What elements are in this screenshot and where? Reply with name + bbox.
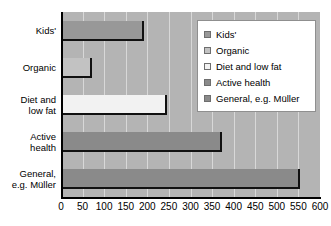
x-axis-tick-label: 550	[287, 201, 309, 213]
legend-label: General, e.g. Müller	[216, 93, 299, 104]
x-axis-tick-label: 50	[72, 201, 94, 213]
x-axis-tick-label: 350	[201, 201, 223, 213]
legend-swatch-icon	[204, 31, 211, 38]
y-axis-line	[61, 12, 63, 198]
legend-swatch-icon	[204, 47, 211, 54]
bar	[61, 21, 144, 41]
x-axis-tick-label: 300	[180, 201, 202, 213]
legend-label: Organic	[216, 45, 249, 56]
y-axis-label-line: Active	[0, 131, 56, 142]
legend-swatch-icon	[204, 63, 211, 70]
legend-item[interactable]: Diet and low fat	[204, 58, 309, 74]
x-axis-tick-label: 250	[158, 201, 180, 213]
legend-item[interactable]: General, e.g. Müller	[204, 90, 309, 106]
x-axis-tick-label: 150	[115, 201, 137, 213]
x-axis-line	[61, 197, 321, 199]
x-axis-tick-label: 0	[50, 201, 72, 213]
legend: Kids'OrganicDiet and low fatActive healt…	[197, 20, 316, 112]
x-axis-tick-label: 450	[244, 201, 266, 213]
x-axis-tick-label: 600	[309, 201, 331, 213]
legend-label: Active health	[216, 77, 270, 88]
legend-item[interactable]: Active health	[204, 74, 309, 90]
x-axis-tick-label: 400	[223, 201, 245, 213]
bar	[61, 58, 92, 78]
x-axis-tick-label: 100	[93, 201, 115, 213]
y-axis-label-line: e.g. Müller	[0, 179, 56, 190]
y-axis-label-line: low fat	[0, 105, 56, 116]
y-axis-label-line: health	[0, 142, 56, 153]
legend-swatch-icon	[204, 95, 211, 102]
y-axis-label-line: Organic	[0, 62, 56, 73]
bar	[61, 169, 300, 189]
y-axis-label-line: General,	[0, 168, 56, 179]
bar	[61, 132, 222, 152]
bar-chart: Kids'OrganicDiet andlow fatActivehealthG…	[0, 0, 331, 226]
y-axis-label: Organic	[0, 62, 56, 73]
legend-item[interactable]: Organic	[204, 42, 309, 58]
legend-swatch-icon	[204, 79, 211, 86]
bar	[61, 95, 167, 115]
x-axis-tick-label: 200	[136, 201, 158, 213]
y-axis-label: Diet andlow fat	[0, 94, 56, 116]
x-axis-tick-label: 500	[266, 201, 288, 213]
legend-label: Kids'	[216, 29, 236, 40]
y-axis-label: Activehealth	[0, 131, 56, 153]
y-axis-label-line: Kids'	[0, 25, 56, 36]
y-axis-label-line: Diet and	[0, 94, 56, 105]
y-axis-label: Kids'	[0, 25, 56, 36]
legend-item[interactable]: Kids'	[204, 26, 309, 42]
y-axis-label: General,e.g. Müller	[0, 168, 56, 190]
legend-label: Diet and low fat	[216, 61, 281, 72]
